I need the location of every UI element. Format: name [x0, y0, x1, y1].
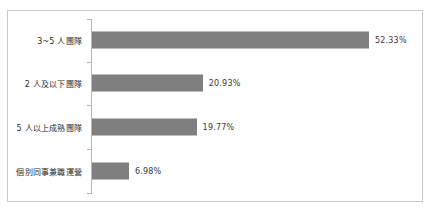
bar-group: 19.77%	[92, 119, 234, 136]
axis-tick	[87, 193, 91, 194]
bar-group: 6.98%	[92, 163, 161, 180]
bar-category-label: 個別同事兼職運營	[16, 166, 89, 177]
bar[interactable]	[92, 32, 369, 49]
bar-value-label: 52.33%	[375, 36, 407, 45]
bar-category-label: 3~5 人團隊	[37, 35, 89, 46]
bar-category-label: 5 人以上成熟團隊	[17, 122, 89, 133]
bar[interactable]	[92, 163, 129, 180]
bar[interactable]	[92, 75, 203, 92]
bar-row: 個別同事兼職運營 6.98%	[8, 150, 422, 192]
bar-group: 20.93%	[92, 75, 241, 92]
chart-frame: 3~5 人團隊 52.33% 2 人及以下團隊 20.93% 5 人以上成熟團隊…	[7, 10, 423, 202]
bar-row: 3~5 人團隊 52.33%	[8, 19, 422, 61]
bar-category-label: 2 人及以下團隊	[25, 78, 89, 89]
bar-row: 2 人及以下團隊 20.93%	[8, 62, 422, 104]
bar-group: 52.33%	[92, 32, 407, 49]
bar-value-label: 20.93%	[209, 79, 241, 88]
bar-row: 5 人以上成熟團隊 19.77%	[8, 106, 422, 148]
bar-value-label: 19.77%	[203, 123, 235, 132]
bar-value-label: 6.98%	[135, 167, 161, 176]
plot-area: 3~5 人團隊 52.33% 2 人及以下團隊 20.93% 5 人以上成熟團隊…	[8, 11, 422, 201]
bar[interactable]	[92, 119, 197, 136]
